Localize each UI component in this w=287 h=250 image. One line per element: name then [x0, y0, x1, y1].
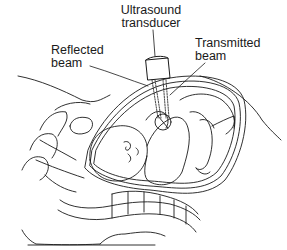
fetal-hair-2 [136, 148, 138, 155]
leader-transducer [153, 30, 155, 56]
beam-right-2 [166, 80, 169, 118]
body-contour-back [18, 76, 110, 102]
pelvis-7 [45, 175, 76, 192]
uterus-wall-inner-1 [90, 81, 240, 188]
bladder [70, 117, 93, 134]
transducer-body [146, 58, 170, 80]
table-contour [22, 230, 100, 245]
body-bottom [100, 232, 165, 244]
label-ultrasound-transducer: Ultrasound transducer [116, 4, 186, 30]
label-transmitted-beam: Transmitted beam [195, 37, 261, 63]
leader-transmitted [170, 63, 205, 95]
spine-top [112, 191, 198, 214]
pelvis-6 [36, 160, 84, 178]
label-transmitted-line2: beam [195, 50, 261, 63]
pelvis-4 [22, 157, 48, 180]
spine-outline-2 [58, 210, 196, 232]
pelvis-2 [40, 112, 67, 136]
spine-outline [60, 200, 200, 220]
belly-contour [200, 76, 281, 140]
fetal-back [180, 94, 235, 128]
transducer [146, 56, 170, 80]
pelvis-3 [30, 134, 57, 158]
uterus-wall-inner-2 [94, 86, 235, 183]
label-transducer-line2: transducer [116, 17, 186, 30]
fetal-leg [190, 112, 212, 170]
label-reflected-beam: Reflected beam [51, 44, 104, 70]
pelvis-5 [40, 140, 76, 160]
ultrasound-diagram: Ultrasound transducer Reflected beam Tra… [0, 0, 287, 250]
fetal-hair-1 [128, 154, 131, 162]
fetal-ear [124, 141, 131, 150]
fetal-lower-leg [212, 116, 235, 134]
label-reflected-line2: beam [51, 57, 104, 70]
pelvis-1 [55, 102, 90, 110]
